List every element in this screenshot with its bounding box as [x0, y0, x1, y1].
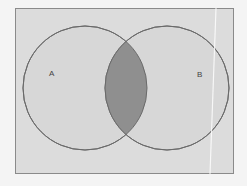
set-b-label: B: [197, 70, 202, 79]
set-a-label: A: [49, 69, 55, 78]
venn-diagram: A B: [0, 0, 247, 186]
